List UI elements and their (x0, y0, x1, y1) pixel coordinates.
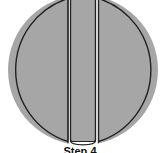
cut-circle-diagram (0, 0, 160, 153)
center-strip (71, 0, 96, 142)
left-segment (0, 0, 68, 153)
step-caption: Step 4 (0, 145, 160, 153)
